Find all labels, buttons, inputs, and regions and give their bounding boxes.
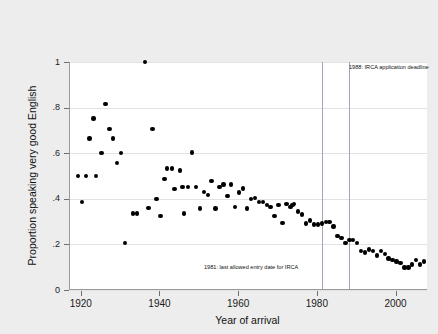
x-tick-label: 1920 (70, 299, 92, 309)
gridline-y (70, 108, 427, 109)
figure-canvas: 0.2.4.6.81 19201940196019802000 Proporti… (0, 0, 438, 334)
reference-line-label-1988: 1988: IRCA application deadline (349, 65, 429, 71)
data-point (241, 186, 245, 190)
gridline-y (70, 290, 427, 291)
data-point (190, 150, 194, 154)
data-point (339, 236, 343, 240)
data-point (292, 202, 296, 206)
x-tick (238, 291, 239, 296)
reference-line-label-1981: 1981: last allowed entry date for IRCA (204, 265, 298, 271)
x-tick (317, 291, 318, 296)
data-point (143, 60, 147, 64)
data-point (194, 185, 198, 189)
data-point (186, 185, 190, 189)
graph-region: 0.2.4.6.81 19201940196019802000 Proporti… (14, 11, 426, 314)
data-point (111, 136, 115, 140)
data-point (198, 206, 202, 210)
gridline-y (70, 153, 427, 154)
x-tick-label: 1940 (148, 299, 170, 309)
data-point (87, 136, 91, 140)
data-point (229, 182, 233, 186)
data-point (103, 102, 107, 106)
data-point (245, 206, 249, 210)
x-tick-label: 2000 (384, 299, 406, 309)
y-tick (64, 108, 69, 109)
data-point (162, 177, 166, 181)
data-point (280, 221, 284, 225)
data-point (253, 196, 257, 200)
data-point (410, 262, 414, 266)
data-point (422, 259, 426, 263)
y-tick (64, 199, 69, 200)
x-tick-label: 1980 (306, 299, 328, 309)
y-tick (64, 290, 69, 291)
gridline-y (70, 62, 427, 63)
data-point (76, 174, 80, 178)
data-point (94, 174, 98, 178)
data-point (80, 200, 84, 204)
x-tick (81, 291, 82, 296)
y-tick (64, 153, 69, 154)
data-point (99, 151, 103, 155)
data-point (331, 224, 335, 228)
data-point (115, 161, 119, 165)
data-point (225, 194, 229, 198)
x-tick (159, 291, 160, 296)
x-tick (396, 291, 397, 296)
data-point (172, 187, 176, 191)
data-point (371, 249, 375, 253)
data-point (119, 151, 123, 155)
data-point (178, 168, 182, 172)
data-point (272, 214, 276, 218)
y-tick (64, 244, 69, 245)
data-point (84, 174, 88, 178)
data-point (91, 116, 95, 120)
data-point (414, 258, 418, 262)
data-point (237, 190, 241, 194)
data-point (268, 205, 272, 209)
data-point (300, 212, 304, 216)
data-point (107, 127, 111, 131)
data-point (154, 197, 158, 201)
y-tick (64, 62, 69, 63)
reference-line-1988 (349, 62, 350, 289)
y-axis-title: Proportion speaking very good English (25, 62, 39, 289)
data-point (135, 211, 139, 215)
data-point (233, 205, 237, 209)
data-point (158, 214, 162, 218)
data-point (182, 211, 186, 215)
data-point (375, 253, 379, 257)
plot-area (69, 62, 427, 290)
data-point (343, 241, 347, 245)
data-point (209, 179, 213, 183)
data-point (213, 206, 217, 210)
data-point (276, 203, 280, 207)
reference-line-1981 (322, 62, 323, 289)
data-point (170, 166, 174, 170)
data-point (146, 206, 150, 210)
data-point (150, 127, 154, 131)
data-point (165, 166, 169, 170)
x-tick-label: 1960 (227, 299, 249, 309)
data-point (221, 182, 225, 186)
data-point (206, 193, 210, 197)
x-axis-title: Year of arrival (69, 315, 426, 326)
data-point (180, 185, 184, 189)
